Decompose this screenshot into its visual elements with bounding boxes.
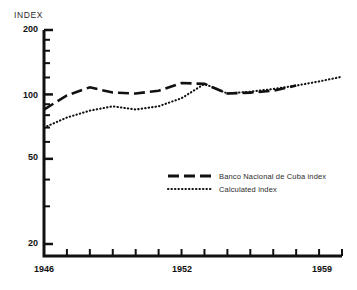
chart-canvas	[0, 0, 357, 290]
legend-line-samples	[168, 176, 213, 189]
chart-figure: INDEX 200 100 50 20 1946 1952 1959 Banco…	[0, 0, 357, 290]
chart-plot-area	[44, 77, 342, 128]
chart-axes	[44, 30, 342, 256]
